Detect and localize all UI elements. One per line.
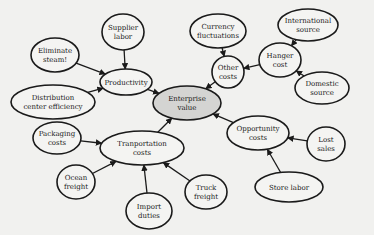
edge-eliminate-steam-to-productivity bbox=[76, 63, 105, 74]
node-productivity: Productivity bbox=[100, 69, 152, 95]
node-label: Opportunity bbox=[236, 125, 279, 133]
node-label: source bbox=[310, 89, 334, 97]
node-label: costs bbox=[249, 134, 268, 142]
edge-distribution-center-efficiency-to-productivity bbox=[88, 88, 103, 92]
node-label: Supplier bbox=[108, 24, 139, 32]
edge-packaging-costs-to-transportation-costs bbox=[81, 141, 102, 143]
node-label: Productivity bbox=[104, 79, 147, 87]
node-international-source: Internationalsource bbox=[278, 9, 338, 41]
node-truck-freight: Truckfreight bbox=[185, 175, 227, 209]
node-label: freight bbox=[64, 183, 88, 191]
node-eliminate-steam: Eliminatesteam! bbox=[31, 38, 79, 72]
node-label: cost bbox=[273, 61, 288, 69]
node-label: Packaging bbox=[39, 130, 76, 138]
edge-opportunity-costs-to-enterprise-value bbox=[213, 114, 233, 123]
edge-international-source-to-hanger-cost bbox=[291, 40, 296, 46]
edge-lost-sales-to-opportunity-costs bbox=[288, 138, 308, 141]
node-label: Ocean bbox=[65, 174, 88, 182]
node-label: costs bbox=[133, 149, 152, 157]
node-label: Import bbox=[137, 203, 161, 211]
node-label: Tranportation bbox=[117, 140, 167, 148]
node-label: freight bbox=[194, 193, 218, 201]
node-label: labor bbox=[114, 33, 133, 41]
node-label: duties bbox=[138, 212, 160, 220]
node-opportunity-costs: Opportunitycosts bbox=[227, 116, 289, 150]
node-label: Domestic bbox=[305, 80, 338, 88]
node-supplier-labor: Supplierlabor bbox=[102, 14, 144, 50]
node-label: costs bbox=[48, 139, 67, 147]
node-label: costs bbox=[219, 73, 238, 81]
node-label: fluctuations bbox=[197, 32, 239, 40]
node-label: source bbox=[296, 26, 320, 34]
edge-productivity-to-enterprise-value bbox=[147, 89, 159, 93]
node-label: Hanger bbox=[267, 52, 294, 60]
edge-ocean-freight-to-transportation-costs bbox=[92, 161, 116, 173]
node-label: International bbox=[285, 17, 332, 25]
node-ocean-freight: Oceanfreight bbox=[57, 165, 95, 199]
node-label: Other bbox=[218, 64, 239, 72]
node-transportation-costs: Tranportationcosts bbox=[100, 131, 184, 165]
node-currency-fluctuations: Currencyfluctuations bbox=[190, 14, 246, 48]
edge-hanger-cost-to-other-costs bbox=[244, 65, 260, 69]
node-label: Currency bbox=[201, 23, 234, 31]
node-lost-sales: Lostsales bbox=[307, 127, 345, 161]
influence-diagram: SupplierlaborEliminatesteam!Distribution… bbox=[0, 0, 374, 235]
node-label: Store labor bbox=[269, 184, 310, 192]
edge-supplier-labor-to-productivity bbox=[124, 50, 125, 69]
edge-other-costs-to-enterprise-value bbox=[206, 82, 215, 89]
node-enterprise-value: Enterprisevalue bbox=[153, 86, 221, 120]
node-label: Enterprise bbox=[168, 95, 206, 103]
edge-currency-fluctuations-to-other-costs bbox=[222, 48, 224, 57]
edge-truck-freight-to-transportation-costs bbox=[163, 163, 190, 181]
node-label: center efficiency bbox=[23, 103, 82, 111]
node-label: Distribution bbox=[32, 94, 75, 102]
edge-store-labor-to-opportunity-costs bbox=[267, 149, 280, 172]
node-domestic-source: Domesticsource bbox=[295, 72, 349, 104]
edge-transportation-costs-to-enterprise-value bbox=[158, 118, 172, 132]
node-packaging-costs: Packagingcosts bbox=[33, 122, 81, 154]
node-distribution-center-efficiency: Distributioncenter efficiency bbox=[11, 85, 95, 119]
node-hanger-cost: Hangercost bbox=[259, 43, 301, 77]
node-label: sales bbox=[317, 145, 335, 153]
node-other-costs: Othercosts bbox=[212, 56, 244, 88]
node-label: Eliminate bbox=[38, 47, 72, 55]
nodes: SupplierlaborEliminatesteam!Distribution… bbox=[11, 9, 349, 229]
node-import-duties: Importduties bbox=[126, 193, 172, 229]
node-store-labor: Store labor bbox=[255, 172, 323, 202]
edge-domestic-source-to-hanger-cost bbox=[296, 71, 304, 76]
node-label: Lost bbox=[318, 136, 333, 144]
node-label: steam! bbox=[43, 56, 67, 64]
node-label: value bbox=[176, 104, 196, 112]
node-label: Truck bbox=[196, 184, 217, 192]
edge-import-duties-to-transportation-costs bbox=[144, 165, 147, 193]
